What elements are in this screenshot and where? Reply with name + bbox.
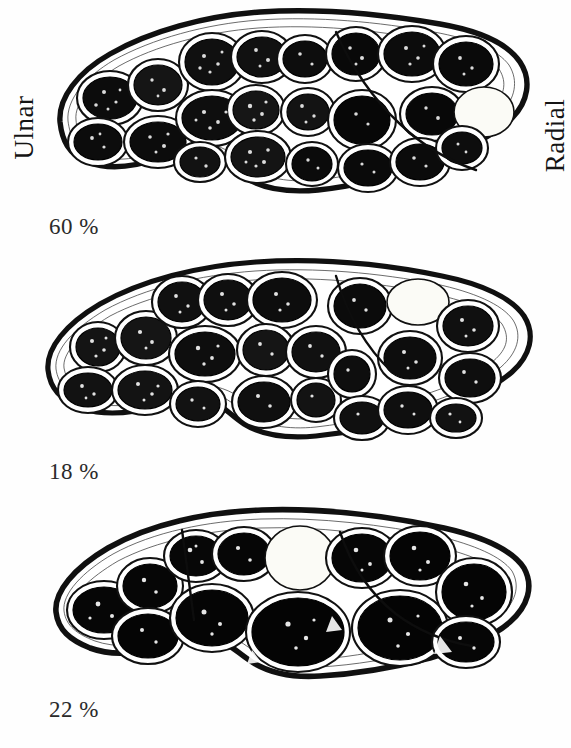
percent-label-2: 18 % bbox=[49, 459, 99, 485]
nerve-cross-section-figure: Ulnar Radial bbox=[0, 0, 571, 748]
percent-label-3: 22 % bbox=[49, 697, 99, 723]
percent-label-1: 60 % bbox=[49, 214, 99, 240]
specimen-drawing-1 bbox=[0, 2, 571, 207]
nerve-cross-section-1 bbox=[0, 2, 571, 207]
specimen-drawing-2 bbox=[0, 252, 571, 452]
pale-fascicle bbox=[265, 526, 335, 590]
nerve-cross-section-2 bbox=[0, 252, 571, 452]
specimen-drawing-3 bbox=[0, 500, 571, 690]
nerve-cross-section-3 bbox=[0, 500, 571, 690]
